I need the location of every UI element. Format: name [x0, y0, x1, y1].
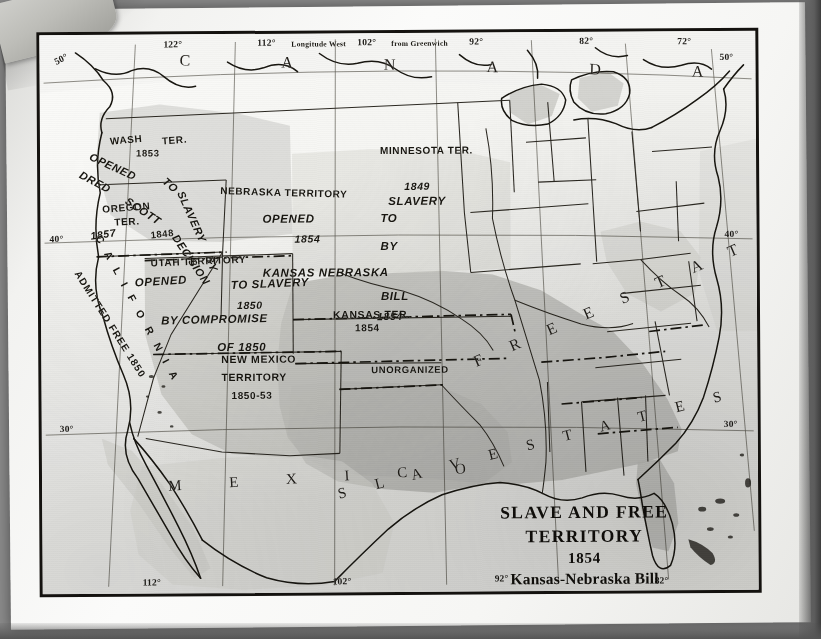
nebraska-by: BY — [381, 241, 398, 253]
longitude-label-bottom-112: 112° — [143, 578, 161, 588]
longitude-west-caption: Longitude West — [291, 40, 346, 48]
latitude-label-right-50: 50° — [719, 53, 733, 63]
territory-label-minnesota: MINNESOTA TER. — [380, 146, 473, 157]
map-title-year: 1854 — [450, 549, 718, 568]
map-plate: 122° 112° Longitude West 102° from Green… — [36, 28, 761, 597]
longitude-label-82: 82° — [579, 37, 593, 47]
longitude-label-72: 72° — [677, 37, 691, 47]
map-title-line-1: SLAVE AND FREE — [450, 501, 718, 524]
nebraska-opened: OPENED — [262, 214, 314, 226]
territory-label-unorganized: UNORGANIZED — [371, 365, 448, 375]
utah-of-1850: OF 1850 — [217, 342, 266, 354]
territory-year-new-mexico: 1850-53 — [231, 391, 272, 401]
territory-label-new-mexico-territory: TERRITORY — [221, 372, 287, 383]
nebraska-bill: BILL — [381, 291, 409, 303]
minnesota-slavery-note: SLAVERY — [388, 196, 446, 208]
utah-year: 1850 — [237, 300, 263, 311]
territory-year-washington: 1853 — [136, 148, 160, 158]
territory-year-kansas: 1854 — [355, 323, 380, 333]
nebraska-to: TO — [380, 213, 397, 225]
nebraska-year: 1854 — [295, 233, 321, 244]
from-greenwich-caption: from Greenwich — [391, 40, 448, 48]
map-title-line-2: TERRITORY — [450, 525, 718, 548]
longitude-label-112: 112° — [257, 39, 275, 49]
latitude-label-right-30: 30° — [724, 420, 738, 430]
territory-label-oregon-ter: TER. — [114, 216, 140, 227]
photo-right-shadow — [799, 0, 821, 639]
territory-label-new-mexico: NEW MEXICO — [221, 354, 296, 365]
map-title-block: SLAVE AND FREE TERRITORY 1854 Kansas-Neb… — [450, 501, 719, 589]
photograph-of-map-page: 122° 112° Longitude West 102° from Green… — [0, 0, 821, 639]
territory-year-minnesota: 1849 — [404, 181, 430, 192]
map-title-subtitle: Kansas-Nebraska Bill — [451, 569, 719, 589]
territory-label-washington-ter: TER. — [162, 135, 188, 147]
latitude-label-left-30: 30° — [60, 425, 74, 435]
latitude-label-left-40: 40° — [50, 235, 64, 245]
territory-label-kansas: KANSAS TER. — [333, 309, 411, 320]
longitude-label-bottom-102: 102° — [333, 577, 352, 587]
photo-bottom-shadow — [0, 623, 821, 639]
longitude-label-92: 92° — [469, 37, 483, 47]
longitude-label-102: 102° — [357, 38, 376, 48]
map-canvas: 122° 112° Longitude West 102° from Green… — [39, 31, 758, 594]
longitude-label-122: 122° — [163, 40, 182, 50]
